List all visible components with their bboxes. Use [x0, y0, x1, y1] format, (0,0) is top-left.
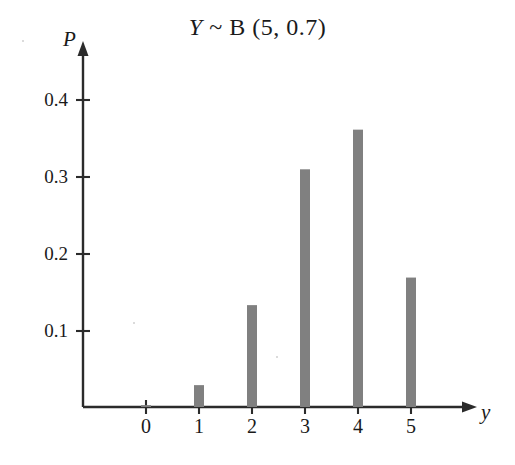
- x-axis-arrowhead: [462, 402, 477, 413]
- x-tick-label-0: 0: [131, 415, 161, 438]
- y-axis-arrowhead: [78, 41, 89, 56]
- x-tick-label-1: 1: [184, 415, 214, 438]
- binomial-distribution-chart: Y ~ B (5, 0.7) P y 0.4 0.3 0.2 0.1 0 1 2…: [0, 0, 515, 465]
- y-tick-label-0.3: 0.3: [22, 166, 68, 188]
- bar-5: [406, 278, 416, 407]
- bar-0: [141, 405, 151, 407]
- plot-area: [0, 0, 515, 465]
- y-tick-label-0.1: 0.1: [22, 320, 68, 342]
- bar-4: [353, 130, 363, 407]
- bar-3: [300, 169, 310, 407]
- bar-1: [194, 385, 204, 407]
- bars-group: [141, 130, 416, 407]
- x-tick-label-2: 2: [237, 415, 267, 438]
- y-tick-label-0.2: 0.2: [22, 243, 68, 265]
- y-tick-label-0.4: 0.4: [22, 89, 68, 111]
- x-tick-label-4: 4: [343, 415, 373, 438]
- x-tick-label-3: 3: [290, 415, 320, 438]
- bar-2: [247, 305, 257, 407]
- x-tick-label-5: 5: [396, 415, 426, 438]
